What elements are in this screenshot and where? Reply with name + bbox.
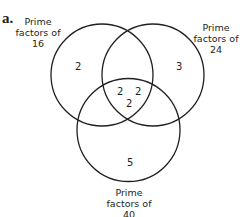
set-label-40: Prime factors of 40: [99, 187, 159, 217]
set-label-24-line3: 24: [186, 44, 245, 55]
set-label-16-line1: Prime: [8, 16, 68, 27]
set-label-16-line2: factors of: [8, 27, 68, 38]
set-label-24-line1: Prime: [186, 22, 245, 33]
set-label-40-line1: Prime: [99, 187, 159, 198]
set-label-24: Prime factors of 24: [186, 22, 245, 55]
set-label-16-line3: 16: [8, 38, 68, 49]
region-only-24: 3: [176, 62, 182, 72]
set-label-16: Prime factors of 16: [8, 16, 68, 49]
region-16-and-24-left: 2: [117, 87, 123, 97]
region-all-three: 2: [126, 99, 132, 109]
region-only-40: 5: [127, 158, 133, 168]
region-only-16: 2: [75, 62, 81, 72]
set-label-24-line2: factors of: [186, 33, 245, 44]
set-label-40-line3: 40: [99, 209, 159, 217]
region-16-and-24-right: 2: [135, 87, 141, 97]
set-label-40-line2: factors of: [99, 198, 159, 209]
